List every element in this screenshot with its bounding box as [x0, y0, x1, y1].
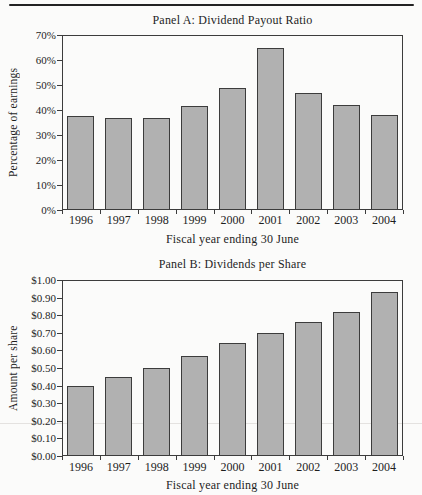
y-tick-mark	[57, 350, 62, 351]
panel-b-dividends-per-share: Panel B: Dividends per Share Amount per …	[0, 0, 422, 495]
bar-1996	[67, 386, 94, 456]
bar-1999	[181, 356, 208, 456]
y-tick-mark	[57, 403, 62, 404]
bar-1998	[143, 368, 170, 456]
y-tick-mark	[57, 368, 62, 369]
panel-b-x-axis-title: Fiscal year ending 30 June	[62, 478, 403, 493]
bar-2004	[371, 292, 398, 456]
x-tick-label-2003: 2003	[327, 460, 365, 474]
x-tick-label-2002: 2002	[289, 460, 327, 474]
x-tick-mark	[403, 456, 404, 460]
figure-page: Panel A: Dividend Payout Ratio Percentag…	[0, 0, 422, 495]
panel-b-title: Panel B: Dividends per Share	[62, 257, 403, 272]
x-tick-label-1998: 1998	[138, 460, 176, 474]
y-tick-mark	[57, 280, 62, 281]
y-tick-mark	[57, 298, 62, 299]
x-tick-label-1996: 1996	[62, 460, 100, 474]
x-tick-label-2001: 2001	[251, 460, 289, 474]
bar-2002	[295, 322, 322, 456]
y-tick-label: $0.20	[0, 414, 56, 428]
y-tick-mark	[57, 386, 62, 387]
y-tick-label: $0.90	[0, 291, 56, 305]
bar-2003	[333, 312, 360, 456]
bar-1997	[105, 377, 132, 456]
y-tick-label: $0.60	[0, 343, 56, 357]
x-tick-label-1999: 1999	[176, 460, 214, 474]
y-tick-label: $0.80	[0, 308, 56, 322]
x-tick-label-2000: 2000	[214, 460, 252, 474]
bar-2000	[219, 343, 246, 456]
y-tick-label: $0.50	[0, 361, 56, 375]
y-tick-label: $1.00	[0, 273, 56, 287]
y-tick-mark	[57, 438, 62, 439]
y-tick-mark	[57, 333, 62, 334]
x-tick-label-1997: 1997	[100, 460, 138, 474]
x-tick-label-2004: 2004	[365, 460, 403, 474]
y-tick-mark	[57, 421, 62, 422]
bar-2001	[257, 333, 284, 456]
y-tick-label: $0.40	[0, 379, 56, 393]
y-tick-label: $0.70	[0, 326, 56, 340]
y-tick-label: $0.00	[0, 449, 56, 463]
y-tick-label: $0.10	[0, 431, 56, 445]
y-tick-mark	[57, 315, 62, 316]
y-tick-label: $0.30	[0, 396, 56, 410]
